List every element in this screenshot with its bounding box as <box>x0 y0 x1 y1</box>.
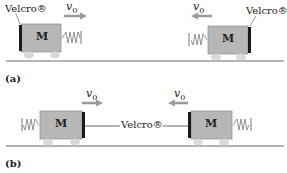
spring-b-right <box>233 119 249 130</box>
spring-a-right <box>191 34 207 45</box>
panel-label-b: (b) <box>5 158 21 169</box>
mass-label-a-left: M <box>36 30 48 43</box>
velocity-subscript: 0 <box>72 6 77 15</box>
velcro-connector-label: Velcro® <box>121 119 163 130</box>
velocity-label-b-right: v0 <box>174 87 185 102</box>
velocity-subscript: 0 <box>180 93 185 102</box>
velocity-subscript: 0 <box>92 93 97 102</box>
velocity-label-a-right: v0 <box>193 0 204 15</box>
panel-label-a: (a) <box>5 73 21 84</box>
spring-b-left <box>23 119 39 130</box>
velocity-label-b-left: v0 <box>86 87 97 102</box>
velcro-pad-b-left <box>82 112 85 138</box>
cart-a-left <box>16 14 81 59</box>
mass-label-b-left: M <box>55 117 67 130</box>
diagram-graphics <box>0 0 287 173</box>
velcro-pad-b-right <box>188 112 191 138</box>
mass-label-b-right: M <box>205 117 217 130</box>
velcro-label-a-right: Velcro® <box>246 5 287 16</box>
velcro-pad-a-right <box>248 27 251 53</box>
velocity-subscript: 0 <box>199 6 204 15</box>
mass-label-a-right: M <box>222 32 234 45</box>
velcro-label-a-left: Velcro® <box>5 3 47 14</box>
velcro-pad-a-left <box>19 25 22 51</box>
cart-b-left <box>22 111 85 146</box>
cart-b-right <box>188 111 251 146</box>
velocity-label-a-left: v0 <box>66 0 77 15</box>
spring-a-left <box>62 32 80 43</box>
